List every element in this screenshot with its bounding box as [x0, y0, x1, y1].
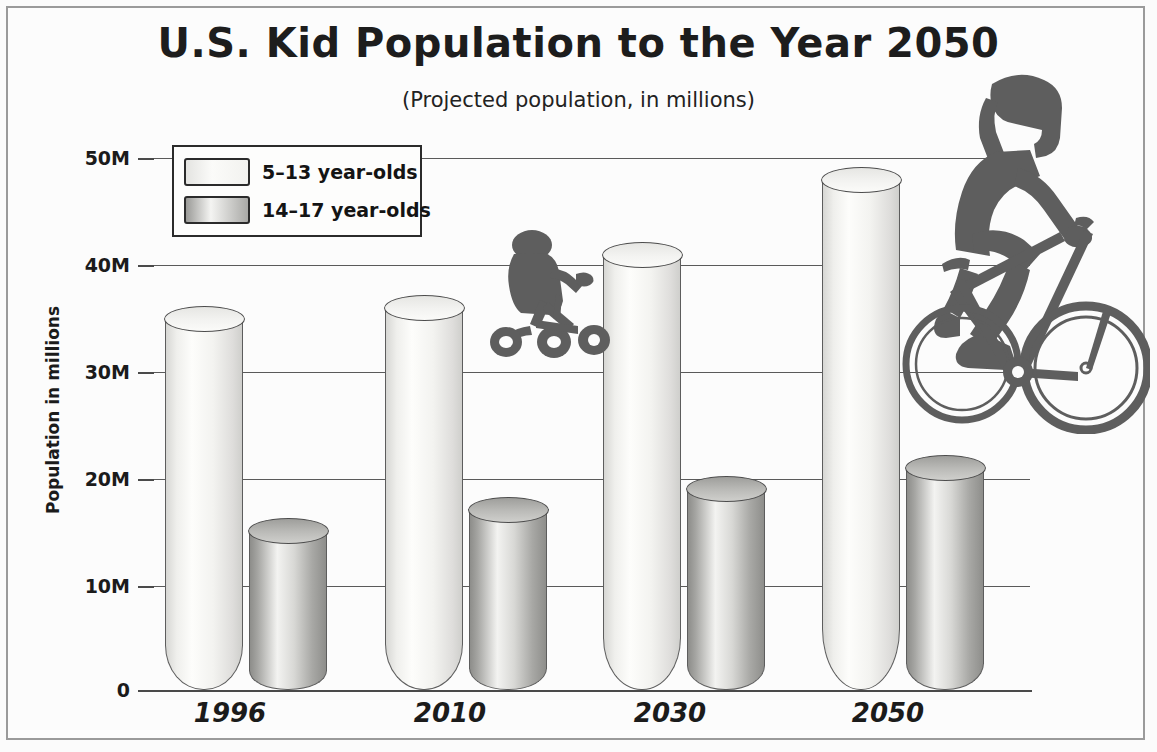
ytick-mark-20 [138, 479, 154, 481]
bar-1996-5-13[interactable] [165, 318, 243, 690]
bar-1996-14-17[interactable] [249, 530, 327, 690]
bar-top-ellipse [468, 497, 549, 523]
ytick-mark-10 [138, 586, 154, 588]
legend-swatch-5-13 [184, 158, 250, 186]
xtick-label-1996: 1996 [150, 698, 310, 728]
bar-2050-14-17[interactable] [906, 467, 984, 690]
bar-top-ellipse [821, 167, 902, 193]
ytick-label-0: 0 [62, 679, 130, 701]
ytick-label-50: 50M [62, 147, 130, 169]
ytick-label-10: 10M [62, 575, 130, 597]
xtick-label-2050: 2050 [808, 698, 968, 728]
legend-swatch-14-17 [184, 196, 250, 224]
ytick-mark-40 [138, 265, 154, 267]
bar-2030-14-17[interactable] [687, 488, 765, 690]
bar-2050-5-13[interactable] [822, 179, 900, 690]
xtick-label-2030: 2030 [590, 698, 750, 728]
teen-on-bicycle-silhouette [900, 72, 1150, 434]
ytick-label-40: 40M [62, 254, 130, 276]
ytick-label-30: 30M [62, 361, 130, 383]
bar-body [687, 488, 765, 690]
bar-2010-5-13[interactable] [385, 307, 463, 690]
bar-top-ellipse [686, 476, 767, 502]
bar-body [822, 179, 900, 690]
bar-2010-14-17[interactable] [469, 509, 547, 690]
bar-top-ellipse [384, 295, 465, 321]
toddler-on-tricycle-silhouette [490, 228, 630, 360]
bar-body [385, 307, 463, 690]
legend-item-14-17[interactable]: 14–17 year-olds [184, 193, 410, 227]
chart-legend: 5–13 year-olds 14–17 year-olds [172, 145, 422, 237]
bar-top-ellipse [164, 306, 245, 332]
bar-body [469, 509, 547, 690]
bar-body [249, 530, 327, 690]
legend-label-14-17: 14–17 year-olds [262, 199, 431, 221]
chart-title: U.S. Kid Population to the Year 2050 [0, 20, 1157, 66]
legend-item-5-13[interactable]: 5–13 year-olds [184, 155, 410, 189]
xtick-label-2010: 2010 [370, 698, 530, 728]
legend-label-5-13: 5–13 year-olds [262, 161, 418, 183]
y-axis-label: Population in millions [43, 295, 63, 525]
chart-canvas: U.S. Kid Population to the Year 2050 (Pr… [0, 0, 1157, 752]
ytick-mark-30 [138, 372, 154, 374]
x-axis-line [138, 690, 1032, 692]
ytick-mark-50 [138, 158, 154, 160]
ytick-label-20: 20M [62, 468, 130, 490]
bar-body [906, 467, 984, 690]
bar-top-ellipse [905, 455, 986, 481]
bar-body [165, 318, 243, 690]
